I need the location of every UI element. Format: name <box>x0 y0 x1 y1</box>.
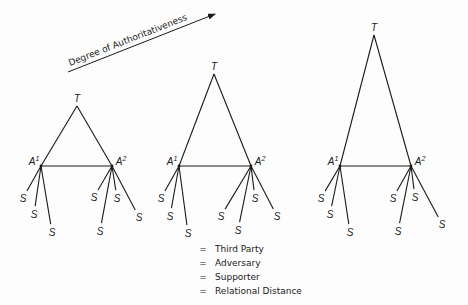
supporter-label: S <box>235 225 242 236</box>
supporter-label: S <box>158 193 165 204</box>
legend-value: Third Party <box>215 243 264 256</box>
supporter-label: S <box>252 193 259 204</box>
legend-value: Adversary <box>215 257 261 270</box>
supporter-label: S <box>167 211 174 222</box>
supporter-line <box>41 166 51 224</box>
adversary-1-label: A1 <box>327 155 339 167</box>
triad-medium: TA1A2SSSSSSS <box>158 61 281 239</box>
axis-arrow <box>68 14 215 72</box>
supporter-label: S <box>185 228 192 239</box>
triad-high: TA1A2SSSSSSS <box>318 22 446 238</box>
supporter-label: S <box>390 193 397 204</box>
supporter-line <box>400 166 411 223</box>
third-party-to-adversary-2-line <box>77 106 112 166</box>
adversary-2-label: A2 <box>254 155 266 167</box>
legend-equals: = <box>198 257 208 270</box>
supporter-label: S <box>274 211 281 222</box>
supporter-label: S <box>31 209 38 220</box>
supporter-line <box>179 166 187 225</box>
third-party-to-adversary-1-line <box>179 74 214 166</box>
supporter-label: S <box>97 226 104 237</box>
third-party-label: T <box>371 22 378 33</box>
legend-value: Relational Distance <box>215 285 302 298</box>
adversary-2-label: A2 <box>414 155 426 167</box>
legend-equals: = <box>198 285 208 298</box>
third-party-to-adversary-1-line <box>340 35 374 166</box>
supporter-label: S <box>412 192 419 203</box>
supporter-label: S <box>136 212 143 223</box>
axis-label: Degree of Authoritativeness <box>67 12 189 68</box>
supporter-label: S <box>395 226 402 237</box>
supporter-label: S <box>49 227 56 238</box>
triad-low: TA1A2SSSSSSS <box>20 93 143 238</box>
supporter-label: S <box>439 219 446 230</box>
legend-value: Supporter <box>215 271 260 284</box>
adversary-1-label: A1 <box>28 155 40 167</box>
supporter-line <box>340 166 349 224</box>
supporter-label: S <box>114 193 121 204</box>
supporter-label: S <box>327 209 334 220</box>
legend-equals: = <box>198 243 208 256</box>
authoritativeness-axis: Degree of Authoritativeness <box>67 12 215 72</box>
third-party-label: T <box>211 61 218 72</box>
supporter-label: S <box>218 211 225 222</box>
supporter-label: S <box>20 193 27 204</box>
supporter-line <box>240 166 251 222</box>
third-party-to-adversary-2-line <box>374 35 411 166</box>
supporter-label: S <box>91 192 98 203</box>
adversary-1-label: A1 <box>166 155 178 167</box>
adversary-2-label: A2 <box>115 155 127 167</box>
supporter-label: S <box>347 227 354 238</box>
legend-equals: = <box>198 271 208 284</box>
supporter-label: S <box>318 193 325 204</box>
third-party-label: T <box>74 93 81 104</box>
third-party-to-adversary-1-line <box>41 106 77 166</box>
third-party-to-adversary-2-line <box>214 74 251 166</box>
